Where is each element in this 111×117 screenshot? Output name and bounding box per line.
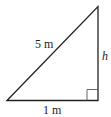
right-triangle-diagram: 5 m 1 m h [0, 0, 111, 117]
hypotenuse-label: 5 m [35, 37, 54, 51]
triangle [7, 7, 98, 101]
right-angle-marker-icon [87, 90, 98, 101]
height-label: h [102, 49, 108, 63]
base-label: 1 m [43, 103, 62, 117]
